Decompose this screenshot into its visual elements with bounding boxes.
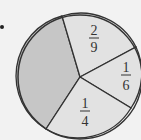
svg-text:1: 1 bbox=[123, 60, 130, 75]
svg-text:4: 4 bbox=[82, 114, 89, 129]
svg-text:9: 9 bbox=[91, 40, 98, 55]
svg-text:1: 1 bbox=[82, 96, 89, 111]
svg-text:6: 6 bbox=[123, 78, 130, 93]
pie-chart: 2 9 1 6 1 4 bbox=[0, 0, 141, 140]
svg-text:2: 2 bbox=[91, 23, 98, 38]
